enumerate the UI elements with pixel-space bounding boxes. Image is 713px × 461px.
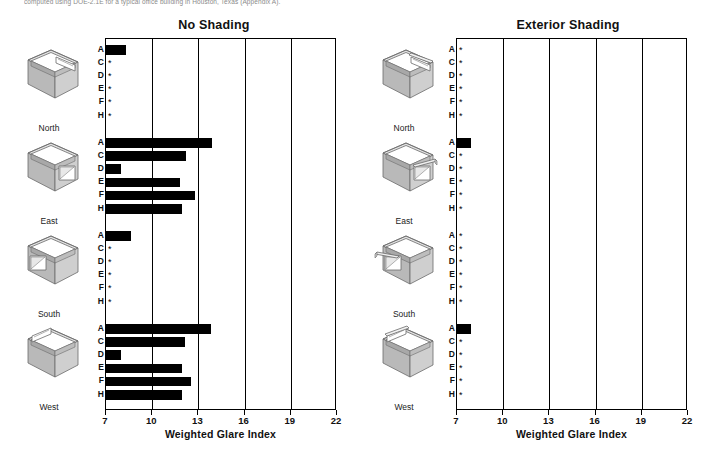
row-label-east-C: C (441, 150, 455, 160)
marker-east-C: * (459, 153, 463, 159)
row-label-north-F: F (441, 96, 455, 106)
marker-north-F: * (459, 99, 463, 105)
chart-title-exterior-shading: Exterior Shading (355, 18, 713, 32)
x-tick-label-10: 10 (497, 415, 508, 426)
x-tick-label-16: 16 (589, 415, 600, 426)
bar-west-C (106, 337, 185, 347)
marker-north-F: * (108, 99, 112, 105)
bar-row: * (106, 257, 337, 267)
marker-south-F: * (459, 285, 463, 291)
bar-row: * (457, 364, 688, 374)
marker-south-E: * (459, 272, 463, 278)
row-label-north-C: C (90, 57, 104, 67)
marker-east-F: * (459, 192, 463, 198)
bar-east-C (106, 151, 186, 161)
row-label-north-D: D (441, 70, 455, 80)
chart-panel-exterior-shading: Exterior Shading NorthEastSouthWest ACDE… (355, 18, 713, 450)
bar-row (106, 390, 337, 400)
chart-panel-no-shading: No Shading NorthEastSouthWest ACDEFHACDE… (0, 18, 352, 450)
building-icon-north: North (363, 40, 445, 133)
bar-east-A (106, 138, 212, 148)
x-axis-title-right: Weighted Glare Index (456, 428, 687, 440)
marker-west-F: * (459, 378, 463, 384)
row-label-west-C: C (441, 336, 455, 346)
building-box-icon (18, 323, 84, 385)
building-box-icon (18, 137, 84, 199)
bar-row: * (457, 111, 688, 121)
bar-row: * (457, 178, 688, 188)
marker-west-D: * (459, 352, 463, 358)
row-label-north-H: H (90, 110, 104, 120)
bar-row: * (457, 297, 688, 307)
row-label-north-A: A (90, 44, 104, 54)
marker-south-C: * (108, 246, 112, 252)
row-label-north-A: A (441, 44, 455, 54)
marker-south-H: * (459, 299, 463, 305)
bar-row: * (106, 271, 337, 281)
row-label-south-D: D (90, 256, 104, 266)
marker-south-E: * (108, 272, 112, 278)
row-label-south-A: A (90, 230, 104, 240)
row-label-north-D: D (90, 70, 104, 80)
orientation-label-north: North (8, 123, 90, 133)
row-label-west-A: A (441, 323, 455, 333)
row-label-west-H: H (90, 389, 104, 399)
marker-west-C: * (459, 339, 463, 345)
x-tick-label-22: 22 (682, 415, 693, 426)
row-label-south-F: F (441, 282, 455, 292)
row-label-south-E: E (441, 269, 455, 279)
bar-row (106, 191, 337, 201)
marker-east-D: * (459, 166, 463, 172)
marker-south-F: * (108, 285, 112, 291)
bar-west-A (106, 324, 211, 334)
bar-row: * (457, 390, 688, 400)
orientation-label-east: East (363, 216, 445, 226)
row-label-west-D: D (90, 349, 104, 359)
building-box-icon (373, 137, 439, 199)
row-label-west-H: H (441, 389, 455, 399)
bar-row (106, 45, 337, 55)
bar-row (106, 350, 337, 360)
x-tick-label-22: 22 (331, 415, 342, 426)
bar-row: * (457, 164, 688, 174)
x-axis-no-shading: Weighted Glare Index 71013161922 (105, 410, 336, 440)
bar-row: * (457, 151, 688, 161)
row-label-west-F: F (90, 375, 104, 385)
bar-row (106, 204, 337, 214)
bar-row: * (106, 98, 337, 108)
row-label-south-C: C (90, 243, 104, 253)
bar-row (106, 377, 337, 387)
row-label-north-E: E (441, 83, 455, 93)
x-axis-exterior-shading: Weighted Glare Index 71013161922 (456, 410, 687, 440)
bar-north-A (106, 45, 126, 55)
building-icon-south: South (8, 226, 90, 319)
building-icon-south: South (363, 226, 445, 319)
marker-north-C: * (459, 60, 463, 66)
row-label-east-H: H (90, 203, 104, 213)
bar-row: * (457, 231, 688, 241)
plot-area-no-shading: ********** (105, 38, 336, 410)
bar-row (106, 324, 337, 334)
bar-row (106, 151, 337, 161)
row-label-east-D: D (441, 163, 455, 173)
bar-row: * (106, 244, 337, 254)
x-axis-title-left: Weighted Glare Index (105, 428, 336, 440)
bar-row (106, 138, 337, 148)
bar-row: * (106, 58, 337, 68)
bar-row (106, 164, 337, 174)
row-label-east-H: H (441, 203, 455, 213)
row-label-west-D: D (441, 349, 455, 359)
marker-south-H: * (108, 299, 112, 305)
row-label-west-C: C (90, 336, 104, 346)
x-tick-label-19: 19 (285, 415, 296, 426)
marker-south-C: * (459, 246, 463, 252)
marker-north-D: * (108, 73, 112, 79)
bar-row: * (106, 71, 337, 81)
marker-west-H: * (459, 392, 463, 398)
building-icon-north: North (8, 40, 90, 133)
x-tick-label-13: 13 (543, 415, 554, 426)
bar-row: * (106, 284, 337, 294)
marker-north-D: * (459, 73, 463, 79)
marker-north-E: * (459, 86, 463, 92)
building-icon-east: East (8, 133, 90, 226)
